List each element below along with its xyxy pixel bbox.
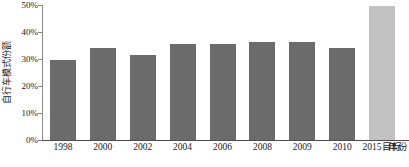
bar	[50, 60, 76, 140]
y-axis-tick-mark	[38, 86, 42, 87]
x-axis-tick-label: 2002	[133, 143, 152, 153]
bar	[289, 42, 315, 140]
y-axis-tick-label: 20%	[22, 82, 39, 91]
x-axis-title: 年份	[388, 143, 408, 153]
y-axis-tick-mark	[38, 59, 42, 60]
bar	[170, 44, 196, 140]
y-axis-tick-label: 40%	[22, 28, 39, 37]
x-axis-tick-label: 2009	[293, 143, 312, 153]
bar	[369, 6, 395, 140]
y-axis-title: 自行车模式份额	[0, 0, 14, 145]
y-axis-tick-label: 50%	[22, 1, 39, 10]
x-axis-tick-label: 2004	[173, 143, 192, 153]
bar	[249, 42, 275, 140]
plot-area	[42, 5, 402, 140]
x-axis-line	[42, 140, 409, 141]
y-axis-tick-mark	[38, 32, 42, 33]
y-axis-tick-mark	[38, 113, 42, 114]
y-axis-tick-mark	[38, 5, 42, 6]
y-axis-tick-labels: 0%10%20%30%40%50%	[13, 0, 40, 145]
bar	[329, 48, 355, 140]
y-axis-tick-label: 0%	[26, 136, 38, 145]
bar	[210, 44, 236, 140]
bar	[130, 55, 156, 140]
bar-chart: 自行车模式份额 0%10%20%30%40%50% 19982000200220…	[0, 0, 409, 167]
x-axis-tick-label: 1998	[53, 143, 72, 153]
bar	[90, 48, 116, 140]
y-axis-tick-label: 30%	[22, 55, 39, 64]
x-axis-tick-label: 2000	[93, 143, 112, 153]
x-axis-tick-label: 2008	[253, 143, 272, 153]
bars-layer	[43, 5, 402, 140]
x-axis-tick-label: 2010	[333, 143, 352, 153]
x-axis-tick-label: 2006	[213, 143, 232, 153]
y-axis-title-label: 自行车模式份额	[3, 41, 12, 104]
x-axis-tick-labels: 199820002002200420062008200920102015目标	[42, 143, 402, 157]
y-axis-tick-label: 10%	[22, 109, 39, 118]
y-axis-tick-mark	[38, 140, 42, 141]
